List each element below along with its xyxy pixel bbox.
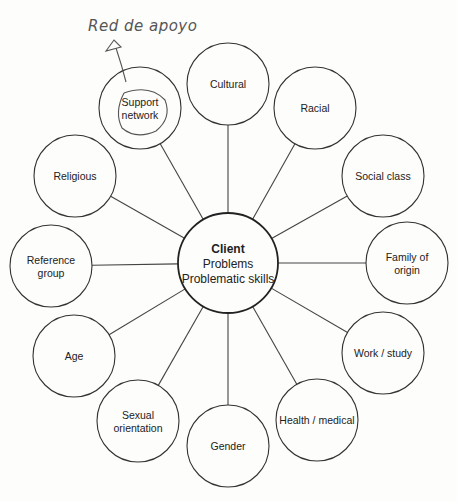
spoke-racial: [252, 144, 294, 220]
hub-spoke-diagram: CulturalRacialSocial classFamily oforigi…: [0, 0, 457, 502]
spoke-reference-group: [92, 264, 178, 265]
node-sexual-orientation: Sexualorientation: [97, 380, 179, 462]
annotation-text: Red de apoyo: [88, 17, 197, 35]
node-label: Gender: [210, 440, 246, 452]
node-health-medical: Health / medical: [276, 379, 358, 461]
node-racial: Racial: [274, 67, 356, 149]
node-cultural: Cultural: [187, 43, 269, 125]
node-support-network: Supportnetwork: [99, 67, 181, 149]
node-reference-group: Referencegroup: [10, 225, 92, 307]
node-label: Cultural: [210, 78, 246, 90]
spoke-health-medical: [253, 306, 297, 384]
node-label: Sexual: [122, 409, 154, 421]
spoke-support-network: [160, 144, 203, 220]
spoke-sexual-orientation: [158, 306, 203, 385]
node-label: Age: [65, 350, 84, 362]
node-label: Reference: [27, 254, 76, 266]
hub-line-2: Problematic skills: [182, 272, 275, 286]
spoke-religious: [111, 196, 185, 238]
hub-line-1: Problems: [203, 257, 254, 271]
hub-title: Client: [211, 242, 244, 256]
node-label: Family of: [386, 251, 429, 263]
node-label: orientation: [113, 422, 162, 434]
node-label: group: [38, 267, 65, 279]
spoke-age: [109, 289, 185, 335]
spoke-work-study: [271, 288, 347, 332]
node-label: Health / medical: [279, 414, 354, 426]
node-label: origin: [394, 264, 420, 276]
node-social-class: Social class: [342, 135, 424, 217]
node-label: network: [122, 109, 160, 121]
node-label: Support: [122, 96, 159, 108]
spoke-social-class: [272, 196, 348, 238]
node-label: Religious: [53, 170, 96, 182]
node-label: Social class: [355, 170, 410, 182]
node-religious: Religious: [34, 135, 116, 217]
node-family-of-origin: Family oforigin: [366, 222, 448, 304]
node-gender: Gender: [187, 405, 269, 487]
node-label: Work / study: [354, 347, 413, 359]
node-label: Racial: [300, 102, 329, 114]
node-age: Age: [33, 315, 115, 397]
node-work-study: Work / study: [342, 312, 424, 394]
hub-node: Client Problems Problematic skills: [178, 213, 278, 313]
